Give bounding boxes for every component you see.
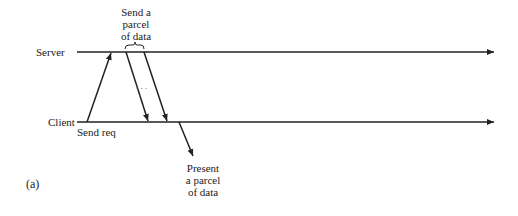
ellipsis: . . .: [136, 80, 147, 92]
send-parcel-line-3: of data: [114, 30, 158, 42]
send-parcel-line-2: parcel: [114, 18, 158, 30]
send-parcel-line-1: Send a: [114, 6, 158, 18]
client-label: Client: [48, 116, 75, 128]
sequence-diagram: [0, 0, 518, 216]
present-parcel-line-2: a parcel: [181, 174, 225, 186]
request-arrow: [87, 53, 111, 122]
data-arrow-2: [144, 52, 167, 121]
send-parcel-label: Send a parcel of data: [114, 6, 158, 42]
server-label: Server: [36, 46, 65, 58]
send-req-label: Send req: [77, 126, 116, 138]
present-arrow: [179, 122, 193, 156]
parcel-brace: [125, 42, 144, 49]
present-parcel-line-1: Present: [181, 162, 225, 174]
present-parcel-label: Present a parcel of data: [181, 162, 225, 198]
panel-label: (a): [26, 178, 39, 190]
present-parcel-line-3: of data: [181, 186, 225, 198]
